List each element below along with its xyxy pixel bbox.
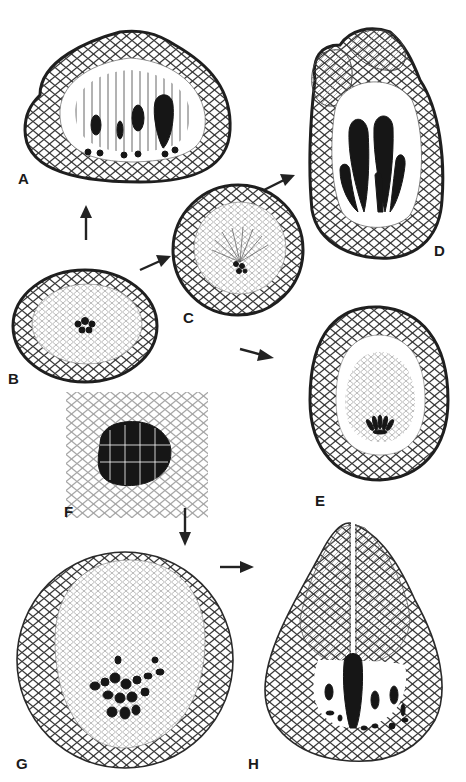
panel-f [66, 392, 208, 518]
panel-label-c: C [183, 309, 194, 326]
panel-a-dark-cell [132, 105, 144, 131]
panel-a-dark-cell [117, 121, 123, 139]
panel-label-g: G [16, 755, 28, 772]
panel-g [17, 552, 233, 768]
panel-b [13, 270, 157, 382]
panel-label-h: H [248, 755, 259, 772]
panel-c [173, 185, 303, 315]
arrow-g-to-h [220, 561, 254, 573]
panel-e [310, 307, 448, 480]
arrow-b-to-c [140, 255, 171, 270]
panel-d [310, 29, 443, 258]
panel-label-a: A [18, 170, 29, 187]
figure-canvas: B C D [0, 0, 466, 782]
panel-h-dark-cell [325, 684, 333, 700]
arrow-c-to-d [264, 174, 295, 190]
panel-h-dark-cell [390, 686, 398, 704]
panel-h [265, 522, 442, 761]
panel-label-b: B [8, 370, 19, 387]
panel-c-inner-cells [194, 202, 286, 294]
arrow-b-to-a [80, 205, 92, 240]
panel-h-dark-cell [371, 691, 379, 709]
panel-h-dark-cell [401, 704, 405, 716]
panel-label-e: E [315, 492, 325, 509]
arrow-b-to-e [240, 349, 274, 361]
panel-a [25, 31, 230, 182]
panel-label-f: F [64, 503, 73, 520]
panel-a-dark-cell [91, 115, 101, 135]
panel-f-dark-cluster [98, 422, 171, 486]
panel-label-d: D [434, 242, 445, 259]
